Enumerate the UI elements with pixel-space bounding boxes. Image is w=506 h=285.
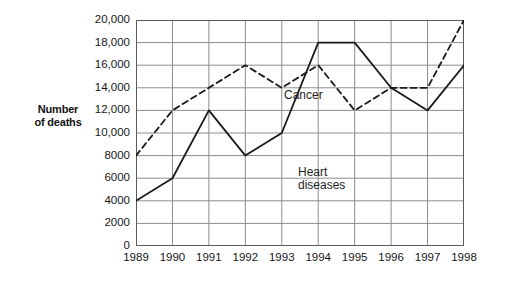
x-tick-label: 1995 bbox=[335, 250, 375, 264]
x-tick-label: 1993 bbox=[262, 250, 302, 264]
plot-area: Cancer Heart diseases bbox=[136, 20, 464, 246]
y-tick-label: 14,000 bbox=[68, 82, 130, 93]
series-annotation-heart-line-2: diseases bbox=[298, 179, 345, 192]
y-tick-label: 6000 bbox=[68, 172, 130, 183]
x-tick-label: 1991 bbox=[189, 250, 229, 264]
y-tick-label: 18,000 bbox=[68, 37, 130, 48]
x-tick-label: 1997 bbox=[408, 250, 448, 264]
y-tick-label: 20,000 bbox=[68, 14, 130, 25]
line-chart-svg bbox=[136, 20, 464, 246]
x-axis-tick-labels: 1989199019911992199319941995199619971998 bbox=[136, 250, 466, 266]
y-tick-label: 10,000 bbox=[68, 127, 130, 138]
y-tick-label: 12,000 bbox=[68, 104, 130, 115]
x-tick-label: 1996 bbox=[371, 250, 411, 264]
x-tick-label: 1992 bbox=[225, 250, 265, 264]
x-tick-label: 1998 bbox=[444, 250, 484, 264]
y-axis-tick-labels: 0200040006000800010,00012,00014,00016,00… bbox=[62, 0, 130, 285]
series-annotation-heart-diseases: Heart diseases bbox=[298, 166, 345, 192]
y-tick-label: 16,000 bbox=[68, 59, 130, 70]
horizontal-gridlines bbox=[136, 43, 464, 224]
y-tick-label: 8000 bbox=[68, 150, 130, 161]
x-tick-label: 1990 bbox=[152, 250, 192, 264]
chart-screenshot: Number of deaths 0200040006000800010,000… bbox=[0, 0, 506, 285]
y-tick-label: 2000 bbox=[68, 217, 130, 228]
y-tick-label: 4000 bbox=[68, 195, 130, 206]
x-tick-label: 1994 bbox=[298, 250, 338, 264]
x-tick-label: 1989 bbox=[116, 250, 156, 264]
series-annotation-cancer: Cancer bbox=[284, 89, 323, 102]
